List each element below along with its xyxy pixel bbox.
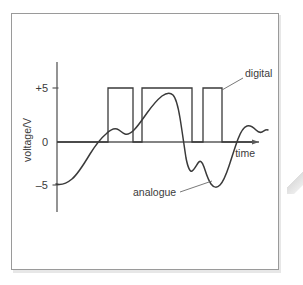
- analogue-waveform: [56, 93, 268, 187]
- y-tick-label-zero: 0: [42, 136, 48, 148]
- x-axis-arrow-icon: [252, 139, 259, 144]
- digital-label: digital: [245, 67, 272, 79]
- y-tick-label-plus5: +5: [35, 82, 48, 94]
- figure-root: +5 0 –5 voltage/V time digital analogue: [0, 0, 303, 285]
- analogue-label: analogue: [133, 186, 176, 198]
- digital-waveform: [57, 88, 252, 142]
- y-axis-title: voltage/V: [21, 118, 33, 162]
- page-edge-artifact: [287, 172, 303, 194]
- digital-leader-line: [222, 78, 243, 90]
- plot-canvas: +5 0 –5 voltage/V time digital analogue: [0, 0, 303, 285]
- x-axis-title: time: [235, 147, 255, 159]
- y-tick-label-minus5: –5: [36, 179, 48, 191]
- analogue-leader-line: [180, 181, 212, 192]
